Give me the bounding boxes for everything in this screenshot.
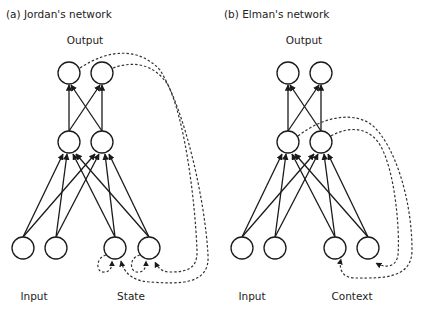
- elman-hidden-node-2: [310, 131, 332, 153]
- elman-output-node-2: [310, 62, 332, 84]
- elman-input-node-1: [231, 237, 253, 259]
- elman-network: [231, 62, 379, 259]
- jordan-network: [12, 62, 160, 259]
- jordan-input-node-1: [12, 237, 34, 259]
- elman-output-node-1: [277, 62, 299, 84]
- jordan-input-node-2: [45, 237, 67, 259]
- jordan-state-node-1: [104, 237, 126, 259]
- elman-context-node-1: [324, 237, 346, 259]
- network-diagrams: [0, 0, 425, 312]
- elman-input-node-2: [264, 237, 286, 259]
- jordan-state-node-2: [138, 237, 160, 259]
- jordan-output-node-2: [91, 62, 113, 84]
- elman-context-node-2: [357, 237, 379, 259]
- jordan-hidden-node-2: [91, 131, 113, 153]
- jordan-output-node-1: [58, 62, 80, 84]
- elman-hidden-node-1: [277, 131, 299, 153]
- jordan-hidden-node-1: [58, 131, 80, 153]
